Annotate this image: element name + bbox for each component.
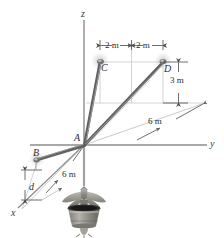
figure-canvas	[0, 0, 224, 238]
anchor-b	[33, 158, 39, 163]
point-label-d: D	[164, 64, 171, 74]
dimension-d	[21, 162, 62, 200]
dimension-label-6m-left: 6 m	[62, 170, 76, 179]
dimension-6m-right	[137, 104, 203, 140]
mechanics-figure: z y x A B C D 2 m 2 m 3 m 6 m 6 m d	[0, 0, 224, 238]
dimension-label-6m-right: 6 m	[148, 117, 162, 126]
dimension-label-3m: 3 m	[170, 76, 184, 85]
point-label-b: B	[33, 148, 39, 158]
axis-label-x: x	[11, 208, 15, 218]
axis-label-z: z	[81, 9, 85, 19]
dimension-label-2m-left: 2 m	[105, 41, 119, 50]
axis-label-y: y	[210, 139, 214, 149]
point-label-c: C	[101, 63, 108, 73]
dimension-label-2m-right: 2 m	[136, 41, 150, 50]
dimension-label-d: d	[29, 182, 34, 192]
point-label-a: A	[74, 133, 80, 143]
eagle-statue	[62, 186, 106, 238]
